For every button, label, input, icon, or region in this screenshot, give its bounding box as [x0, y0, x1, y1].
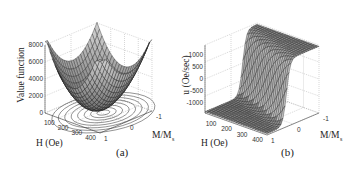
- z-tick-label: 4000: [29, 75, 44, 82]
- h-tick-label: 200: [58, 124, 69, 131]
- h-tick-label: 300: [71, 129, 82, 136]
- h-tick-label: 300: [237, 131, 248, 138]
- h-axis-label: H (Oe): [36, 138, 63, 149]
- z-axis-ticks: 02000400060008000: [29, 41, 44, 116]
- m-tick-label: 0: [130, 124, 134, 131]
- h-axis-label: H (Oe): [201, 138, 228, 149]
- h-tick-label: 400: [85, 134, 96, 141]
- panel-label-a: (a): [116, 146, 129, 159]
- panel-b-control-surface: -1000-5000500100010020030040010-1u (Oe/s…: [179, 0, 358, 171]
- value-function-surface-plot: 0200040006000800010020030040010-1Value f…: [0, 0, 179, 171]
- z-tick-label: 0: [199, 75, 203, 82]
- h-tick-label: 200: [221, 125, 232, 132]
- h-tick-label: 100: [206, 120, 217, 127]
- z-tick-label: 2000: [29, 92, 44, 99]
- m-axis-label-subscript: s: [172, 136, 175, 142]
- m-tick-label: 0: [297, 126, 301, 133]
- z-axis-label: Value function: [16, 47, 26, 103]
- panel-label-b: (b): [281, 146, 294, 159]
- z-axis-label: u (Oe/sec): [181, 55, 192, 94]
- control-surface-plot: -1000-5000500100010020030040010-1u (Oe/s…: [179, 0, 358, 171]
- m-tick-label: -1: [323, 115, 329, 122]
- m-axis-label-subscript: s: [340, 136, 343, 142]
- z-tick-label: 500: [192, 63, 203, 70]
- panel-a-value-function: 0200040006000800010020030040010-1Value f…: [0, 0, 179, 171]
- z-tick-label: 6000: [29, 58, 44, 65]
- surface-mesh: [45, 22, 152, 111]
- surface-mesh: [205, 24, 319, 133]
- z-tick-label: -1000: [186, 99, 203, 106]
- z-tick-label: -500: [190, 87, 203, 94]
- h-tick-label: 100: [44, 119, 55, 126]
- m-tick-label: 1: [271, 137, 275, 144]
- m-tick-label: 1: [104, 135, 108, 142]
- z-tick-label: 8000: [29, 41, 44, 48]
- h-tick-label: 400: [252, 136, 263, 143]
- m-tick-label: -1: [156, 113, 162, 120]
- m-axis-label: M/M: [320, 130, 340, 140]
- m-axis-label: M/M: [152, 130, 172, 140]
- z-tick-label: 0: [39, 109, 43, 116]
